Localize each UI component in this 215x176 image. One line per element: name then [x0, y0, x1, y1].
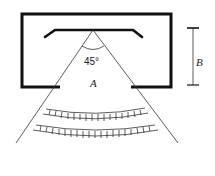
angle-arc — [82, 46, 104, 50]
band-1 — [43, 108, 148, 121]
region-label: A — [89, 77, 97, 89]
dimension-label: B — [196, 56, 203, 68]
angle-label: 45° — [84, 56, 99, 67]
beam-spread-diagram: 45° A B — [0, 0, 215, 176]
band-2 — [33, 125, 158, 138]
